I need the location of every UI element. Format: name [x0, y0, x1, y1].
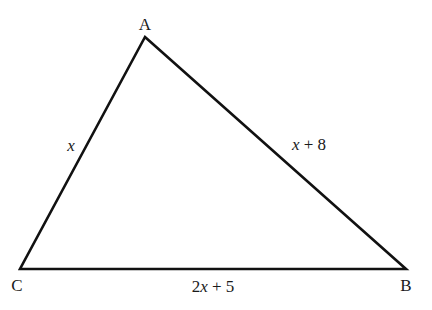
side-label-ac: x [66, 136, 75, 155]
side-cb-coefficient: 2 [192, 277, 201, 296]
side-ab-constant: + 8 [299, 135, 326, 154]
vertex-label-b: B [400, 276, 411, 295]
side-ac-variable: x [66, 136, 75, 155]
vertex-label-c: C [11, 276, 22, 295]
triangle-abc [20, 37, 406, 269]
side-cb-constant: + 5 [208, 277, 235, 296]
side-label-cb: 2x + 5 [192, 277, 235, 296]
side-label-ab: x + 8 [291, 135, 326, 154]
triangle-diagram: A C B x x + 8 2x + 5 [0, 0, 432, 310]
vertex-label-a: A [139, 15, 152, 34]
